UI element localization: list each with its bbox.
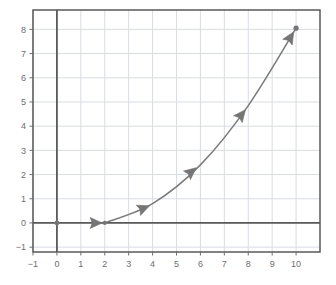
curve-start-dot bbox=[103, 221, 107, 225]
x-tick-label: 8 bbox=[246, 259, 251, 269]
x-tick-label: 6 bbox=[198, 259, 203, 269]
y-tick-label: 2 bbox=[21, 170, 26, 180]
y-tick-label: −1 bbox=[16, 242, 26, 252]
y-tick-label: 7 bbox=[21, 49, 26, 59]
y-tick-label: 5 bbox=[21, 97, 26, 107]
y-tick-label: 3 bbox=[21, 146, 26, 156]
chart-background bbox=[0, 0, 336, 285]
x-tick-label: 3 bbox=[126, 259, 131, 269]
endpoint-dot bbox=[293, 26, 298, 31]
x-tick-label: 0 bbox=[54, 259, 59, 269]
plot-area: −1012345678910 −1012345678 bbox=[0, 0, 336, 285]
y-tick-label: 1 bbox=[21, 194, 26, 204]
y-tick-label: 8 bbox=[21, 25, 26, 35]
x-tick-label: 9 bbox=[270, 259, 275, 269]
x-tick-label: −1 bbox=[28, 259, 38, 269]
y-tick-label: 6 bbox=[21, 73, 26, 83]
x-tick-label: 2 bbox=[102, 259, 107, 269]
x-tick-label: 10 bbox=[291, 259, 301, 269]
chart-container: −1012345678910 −1012345678 bbox=[0, 0, 336, 285]
x-tick-label: 5 bbox=[174, 259, 179, 269]
y-tick-label: 4 bbox=[21, 121, 26, 131]
x-tick-label: 7 bbox=[222, 259, 227, 269]
x-tick-label: 4 bbox=[150, 259, 155, 269]
y-tick-label: 0 bbox=[21, 218, 26, 228]
x-tick-label: 1 bbox=[78, 259, 83, 269]
